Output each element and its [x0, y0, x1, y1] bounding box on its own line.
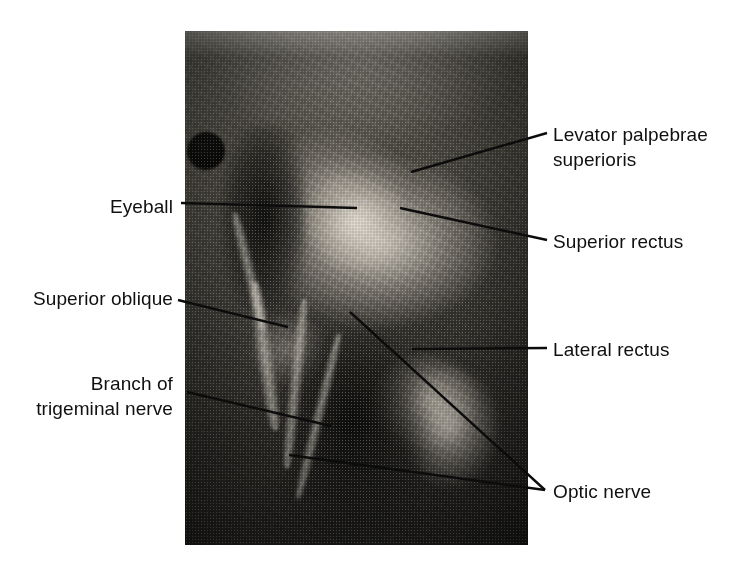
anatomy-figure: Levator palpebrae superioris Superior re…: [0, 0, 732, 576]
label-superior-oblique: Superior oblique: [0, 286, 173, 311]
label-lateral-rectus: Lateral rectus: [553, 337, 728, 362]
dissection-photograph: [185, 31, 528, 545]
label-superior-rectus: Superior rectus: [553, 229, 728, 254]
photo-vignette: [185, 31, 528, 545]
label-optic-nerve: Optic nerve: [553, 479, 728, 504]
label-branch-of-trigeminal-nerve: Branch of trigeminal nerve: [0, 371, 173, 421]
label-levator-palpebrae-superioris: Levator palpebrae superioris: [553, 122, 728, 172]
label-eyeball: Eyeball: [0, 194, 173, 219]
